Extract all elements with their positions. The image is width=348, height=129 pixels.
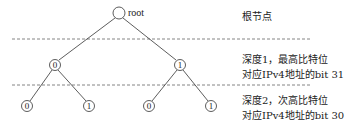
edge-1-10 xyxy=(152,70,177,101)
node-label: 0 xyxy=(147,101,152,111)
level2-description: 深度2，次高比特位 对应IPv4地址的bit 30 xyxy=(242,93,344,123)
description-line: 深度2，次高比特位 xyxy=(242,93,344,108)
edge-0-01 xyxy=(58,70,86,101)
node-label: 0 xyxy=(25,101,30,111)
node-label: 1 xyxy=(87,101,92,111)
description-line: 深度1，最高比特位 xyxy=(242,52,344,67)
node-label: 0 xyxy=(53,60,58,70)
level0-description: 根节点 xyxy=(242,9,272,24)
edge-1-11 xyxy=(183,70,208,101)
level1-description: 深度1，最高比特位 对应IPv4地址的bit 31 xyxy=(242,52,344,82)
depth2-node-00: 0 xyxy=(22,101,33,112)
node-label: 1 xyxy=(209,101,214,111)
depth1-node-1: 1 xyxy=(175,60,186,71)
description-line: 对应IPv4地址的bit 30 xyxy=(242,108,344,123)
depth1-node-0: 0 xyxy=(50,60,61,71)
depth2-node-11: 1 xyxy=(206,101,217,112)
description-line: 对应IPv4地址的bit 31 xyxy=(242,67,344,82)
depth2-node-10: 0 xyxy=(144,101,155,112)
edge-0-00 xyxy=(30,70,52,101)
node-label: 1 xyxy=(178,60,183,70)
root-label: root xyxy=(128,7,144,18)
root-node: root xyxy=(113,7,144,19)
description-line: 根节点 xyxy=(242,9,272,24)
depth2-node-01: 1 xyxy=(84,101,95,112)
